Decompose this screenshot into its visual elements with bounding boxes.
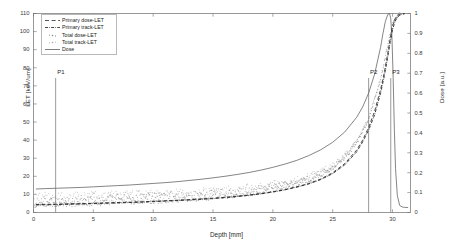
y-axis-left-tick-label: 50	[4, 119, 30, 125]
y-axis-left-tick-label: 80	[4, 65, 30, 71]
y-axis-left-tick-label: 110	[4, 10, 30, 16]
y-axis-right-tick-label: 0.7	[415, 70, 441, 76]
y-axis-left-tick-label: 20	[4, 173, 30, 179]
legend-label: Total track-LET	[62, 39, 97, 46]
y-axis-right-title: Dose [a.u.]	[438, 33, 445, 143]
y-axis-left-tick-label: 10	[4, 191, 30, 197]
legend-item-primary-dose-let: Primary dose-LET	[44, 17, 114, 24]
legend-label: Primary track-LET	[62, 24, 104, 31]
x-axis-tick-label: 30	[378, 216, 408, 222]
y-axis-left-tick-label: 40	[4, 137, 30, 143]
marker-label-p1: P1	[57, 69, 64, 75]
dashed-line-icon	[44, 17, 61, 24]
chart-figure: LET [keV/um] Dose [a.u.] Depth [mm] 0102…	[0, 0, 453, 251]
x-axis-tick-label: 25	[318, 216, 348, 222]
chart-legend: Primary dose-LET Primary track-LET Total…	[41, 14, 117, 55]
y-axis-left-tick-label: 0	[4, 209, 30, 215]
y-axis-right-tick-label: 0.6	[415, 90, 441, 96]
legend-label: Dose	[62, 46, 74, 53]
y-axis-left-tick-label: 70	[4, 83, 30, 89]
y-axis-right-tick-label: 0.8	[415, 50, 441, 56]
x-axis-tick-label: 15	[198, 216, 228, 222]
y-axis-left-tick-label: 30	[4, 155, 30, 161]
y-axis-left-tick-label: 90	[4, 46, 30, 52]
x-axis-tick-label: 0	[19, 216, 49, 222]
y-axis-right-tick-label: 0.3	[415, 150, 441, 156]
y-axis-left-tick-label: 60	[4, 101, 30, 107]
y-axis-right-tick-label: 0.5	[415, 110, 441, 116]
legend-label: Total dose-LET	[62, 32, 97, 39]
scatter-dots-icon	[44, 32, 61, 39]
y-axis-right-tick-label: 1	[415, 10, 441, 16]
y-axis-right-tick-label: 0	[415, 209, 441, 215]
x-axis-title: Depth [mm]	[0, 231, 453, 238]
y-axis-left-tick-label: 100	[4, 28, 30, 34]
y-axis-right-tick-label: 0.9	[415, 30, 441, 36]
legend-item-total-dose-let: Total dose-LET	[44, 32, 114, 39]
dash-dot-line-icon	[44, 24, 61, 31]
y-axis-right-tick-label: 0.4	[415, 130, 441, 136]
legend-label: Primary dose-LET	[62, 17, 104, 24]
marker-label-p3: P3	[392, 69, 399, 75]
legend-item-total-track-let: Total track-LET	[44, 39, 114, 46]
y-axis-right-tick-label: 0.1	[415, 189, 441, 195]
legend-item-primary-track-let: Primary track-LET	[44, 24, 114, 31]
legend-item-dose: Dose	[44, 46, 114, 53]
solid-line-icon	[44, 46, 61, 53]
scatter-dots-icon	[44, 39, 61, 46]
marker-label-p2: P2	[370, 69, 377, 75]
x-axis-tick-label: 10	[138, 216, 168, 222]
x-axis-tick-label: 20	[258, 216, 288, 222]
y-axis-right-tick-label: 0.2	[415, 170, 441, 176]
x-axis-tick-label: 5	[78, 216, 108, 222]
